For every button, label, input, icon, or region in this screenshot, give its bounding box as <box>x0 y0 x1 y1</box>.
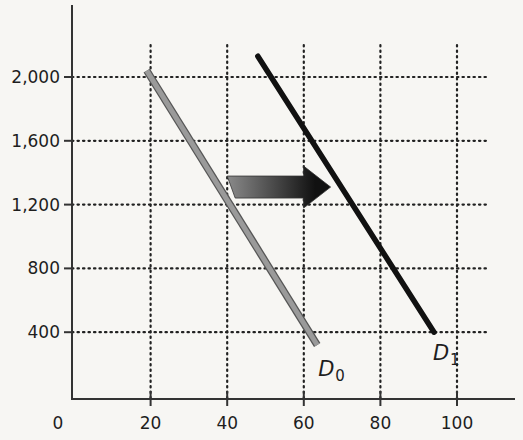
y-tick-label: 1,600 <box>11 131 60 151</box>
shift-arrow <box>227 166 330 208</box>
shift-arrow-icon <box>227 166 330 208</box>
y-tick-label: 2,000 <box>11 67 60 87</box>
curve-labels: D0D1 <box>318 341 459 385</box>
curve-sublabel-D1: 1 <box>450 351 460 369</box>
curve-sublabel-D0: 0 <box>335 367 345 385</box>
y-tick-label: 400 <box>28 322 60 342</box>
demand-shift-chart: 4008001,2001,6002,000020406080100 D0D1 <box>0 0 523 440</box>
x-tick-label: 40 <box>216 413 238 433</box>
y-tick-label: 1,200 <box>11 195 60 215</box>
x-tick-label-origin: 0 <box>53 413 64 433</box>
curve-label-D0: D <box>318 357 334 381</box>
gridlines <box>72 45 487 399</box>
curve-label-D1: D <box>433 341 449 365</box>
tick-labels: 4008001,2001,6002,000020406080100 <box>11 67 473 433</box>
x-tick-label: 80 <box>370 413 392 433</box>
x-tick-label: 20 <box>140 413 162 433</box>
x-tick-label: 60 <box>293 413 315 433</box>
x-tick-label: 100 <box>441 413 473 433</box>
demand-curves <box>147 56 434 345</box>
y-tick-label: 800 <box>28 258 60 278</box>
